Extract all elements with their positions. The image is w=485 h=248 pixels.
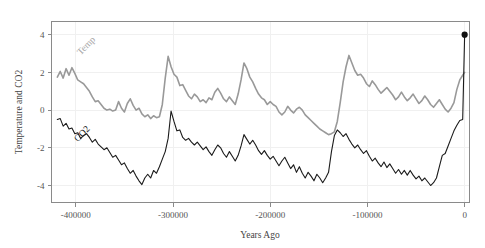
x-tick-label: -400000 [61, 210, 91, 220]
x-tick-label: -100000 [352, 210, 382, 220]
modern-co2-marker [462, 32, 468, 38]
y-tick-label: -4 [37, 181, 45, 191]
data-point-markers [462, 32, 468, 38]
y-tick-label: -2 [37, 143, 45, 153]
chart-figure: TempCO2 -400000-300000-200000-1000000 -4… [0, 0, 485, 248]
x-tick-label: 0 [462, 210, 467, 220]
y-tick-label: 2 [40, 68, 45, 78]
chart-canvas: TempCO2 -400000-300000-200000-1000000 -4… [0, 0, 485, 248]
y-tick-label: 0 [40, 105, 45, 115]
x-tick-label: -200000 [255, 210, 285, 220]
x-axis-title: Years Ago [240, 230, 280, 240]
x-tick-label: -300000 [158, 210, 188, 220]
y-tick-label: 4 [40, 30, 45, 40]
y-axis-title: Temperature and CO2 [14, 70, 24, 155]
